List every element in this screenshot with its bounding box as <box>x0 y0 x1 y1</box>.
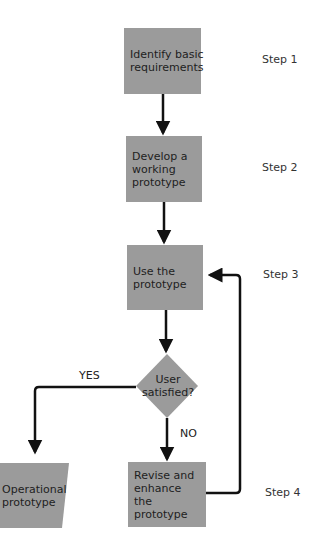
step4-box: Revise and enhance the prototype <box>128 462 206 527</box>
arrow-yes-to-operational <box>35 387 136 452</box>
step3-box: Use the prototype <box>127 245 203 310</box>
step4-box-text: Revise and enhance the prototype <box>134 469 200 521</box>
output-text: Operational prototype <box>2 483 64 509</box>
step3-box-text: Use the prototype <box>133 265 197 291</box>
step-label-1: Step 1 <box>262 53 298 66</box>
step-label-2: Step 2 <box>262 161 298 174</box>
decision-text: User satisfied? <box>137 373 199 399</box>
step-label-4: Step 4 <box>265 486 301 499</box>
step2-box-text: Develop a working prototype <box>132 150 196 189</box>
step1-box: Identify basic requirements <box>124 28 201 94</box>
no-label: NO <box>180 427 197 440</box>
step1-box-text: Identify basic requirements <box>130 48 204 74</box>
arrow-loop-to-step3 <box>206 275 240 493</box>
yes-label: YES <box>79 369 100 382</box>
step2-box: Develop a working prototype <box>126 136 202 202</box>
step-label-3: Step 3 <box>263 268 299 281</box>
